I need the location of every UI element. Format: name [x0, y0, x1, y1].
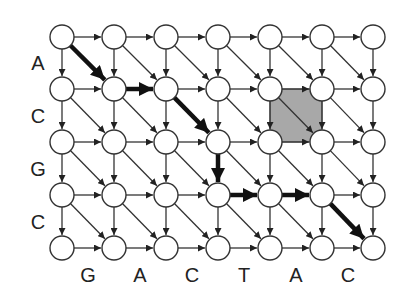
column-label: C: [185, 264, 199, 287]
bold-path-edge: [330, 204, 364, 239]
grid-node: [102, 77, 126, 101]
row-label: G: [30, 158, 46, 181]
grid-node: [361, 77, 385, 101]
grid-node: [258, 25, 282, 49]
edge-arrow: [174, 45, 208, 79]
edge-arrow: [122, 204, 156, 239]
alignment-grid: [0, 0, 409, 302]
grid-node: [310, 236, 334, 260]
grid-node: [102, 183, 126, 207]
grid-node: [50, 236, 74, 260]
bold-path-edge: [70, 45, 104, 79]
edge-arrow: [278, 151, 312, 186]
row-label: C: [31, 211, 45, 234]
grid-node: [102, 130, 126, 154]
edge-arrow: [226, 151, 260, 186]
grid-node: [258, 236, 282, 260]
edge-arrow: [122, 45, 156, 79]
edge-arrow: [174, 204, 208, 239]
edge-arrow: [330, 46, 363, 80]
grid-node: [310, 183, 334, 207]
grid-node: [154, 77, 178, 101]
grid-node: [102, 25, 126, 49]
edge-arrow: [330, 98, 364, 133]
edge-arrow: [278, 45, 312, 79]
grid-node: [361, 130, 385, 154]
grid-node: [154, 183, 178, 207]
edge-arrow: [70, 204, 104, 239]
grid-node: [50, 25, 74, 49]
grid-node: [206, 130, 230, 154]
edge-arrow: [278, 204, 312, 239]
bold-path-edge: [174, 98, 208, 133]
edge-arrow: [122, 151, 156, 186]
row-label: A: [31, 52, 44, 75]
edge-arrow: [226, 45, 260, 79]
grid-node: [206, 77, 230, 101]
edge-arrow: [226, 204, 260, 239]
grid-node: [50, 77, 74, 101]
grid-node: [258, 130, 282, 154]
grid-node: [206, 25, 230, 49]
grid-node: [361, 25, 385, 49]
grid-node: [50, 183, 74, 207]
column-label: A: [133, 264, 146, 287]
column-label: T: [238, 264, 250, 287]
row-label: C: [31, 105, 45, 128]
grid-node: [310, 25, 334, 49]
column-label: A: [289, 264, 302, 287]
edge-arrow: [70, 98, 104, 133]
column-label: G: [80, 264, 96, 287]
edge-arrow: [330, 151, 364, 186]
grid-node: [154, 25, 178, 49]
grid-node: [206, 236, 230, 260]
edge-arrow: [226, 98, 260, 133]
grid-node: [361, 236, 385, 260]
grid-node: [154, 236, 178, 260]
grid-node: [50, 130, 74, 154]
edge-arrow: [174, 151, 208, 186]
grid-node: [310, 130, 334, 154]
grid-node: [310, 77, 334, 101]
grid-node: [206, 183, 230, 207]
column-label: C: [341, 264, 355, 287]
grid-node: [154, 130, 178, 154]
grid-node: [258, 183, 282, 207]
edge-arrow: [70, 151, 104, 186]
grid-node: [102, 236, 126, 260]
grid-node: [258, 77, 282, 101]
edge-arrow: [122, 98, 156, 133]
grid-node: [361, 183, 385, 207]
